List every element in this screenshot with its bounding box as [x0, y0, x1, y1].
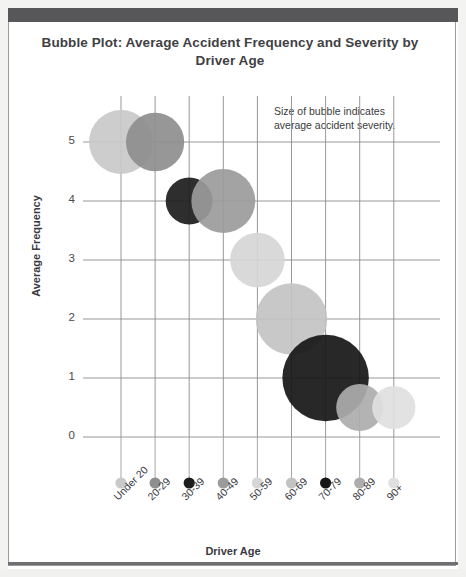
bubble-series: [89, 110, 415, 431]
y-tick-label: 0: [55, 429, 75, 441]
y-tick-label: 4: [55, 193, 75, 205]
bubble-90-[interactable]: [372, 386, 415, 429]
bubble-20-29[interactable]: [126, 113, 184, 171]
bubble-50-59[interactable]: [230, 233, 285, 288]
chart-window: Bubble Plot: Average Accident Frequency …: [0, 0, 466, 577]
y-tick-label: 1: [55, 370, 75, 382]
bubble-40-49[interactable]: [191, 169, 255, 233]
category-marker-stems: [121, 437, 394, 479]
y-tick-label: 5: [55, 134, 75, 146]
y-tick-label: 2: [55, 311, 75, 323]
y-tick-label: 3: [55, 252, 75, 264]
